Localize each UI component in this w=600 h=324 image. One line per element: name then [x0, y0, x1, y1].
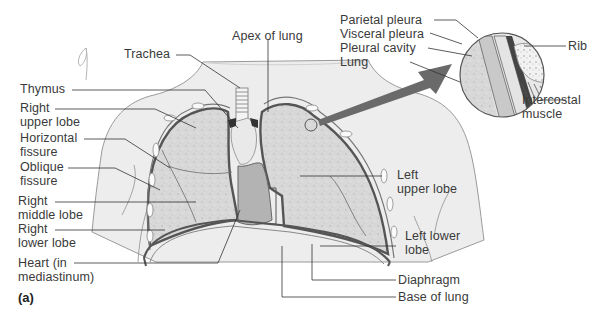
- label-intercostal-muscle: Intercostal muscle: [522, 93, 581, 121]
- label-right-upper-lobe: Right upper lobe: [20, 101, 80, 129]
- label-right-middle-lobe: Right middle lobe: [18, 194, 83, 222]
- label-base-of-lung: Base of lung: [398, 290, 469, 304]
- label-pleural-cavity: Pleural cavity: [340, 41, 416, 55]
- label-diaphragm: Diaphragm: [398, 273, 460, 287]
- label-right-lower-lobe: Right lower lobe: [18, 222, 76, 250]
- label-left-lower-lobe: Left lower lobe: [405, 229, 460, 257]
- label-visceral-pleura: Visceral pleura: [340, 27, 424, 41]
- label-trachea: Trachea: [124, 47, 170, 61]
- hand-gesture-icon: [78, 48, 87, 80]
- label-parietal-pleura: Parietal pleura: [340, 13, 422, 27]
- label-thymus: Thymus: [20, 82, 65, 96]
- label-lung: Lung: [340, 55, 368, 69]
- label-heart: Heart (in mediastinum): [18, 256, 94, 284]
- label-oblique-fissure: Oblique fissure: [20, 160, 64, 188]
- label-apex-of-lung: Apex of lung: [232, 29, 303, 43]
- label-rib: Rib: [568, 39, 587, 53]
- label-horizontal-fissure: Horizontal fissure: [20, 131, 77, 159]
- panel-label: (a): [18, 290, 34, 305]
- label-left-upper-lobe: Left upper lobe: [397, 168, 457, 196]
